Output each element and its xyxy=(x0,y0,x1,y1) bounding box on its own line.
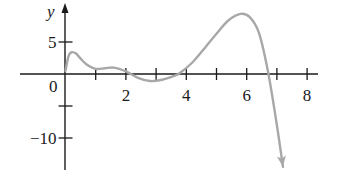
x-tick-label: 8 xyxy=(303,86,312,105)
y-axis-label: y xyxy=(45,2,55,21)
y-tick-label: −10 xyxy=(30,129,57,148)
x-tick-labels: 2468 xyxy=(122,86,312,105)
origin-label: 0 xyxy=(49,77,58,96)
y-axis-arrow-icon xyxy=(62,3,69,13)
x-tick-label: 6 xyxy=(242,86,251,105)
chart-canvas: y 0 2468 5−10 xyxy=(0,0,351,181)
x-tick-label: 2 xyxy=(122,86,131,105)
x-tick-label: 4 xyxy=(182,86,191,105)
y-tick-label: 5 xyxy=(48,33,57,52)
